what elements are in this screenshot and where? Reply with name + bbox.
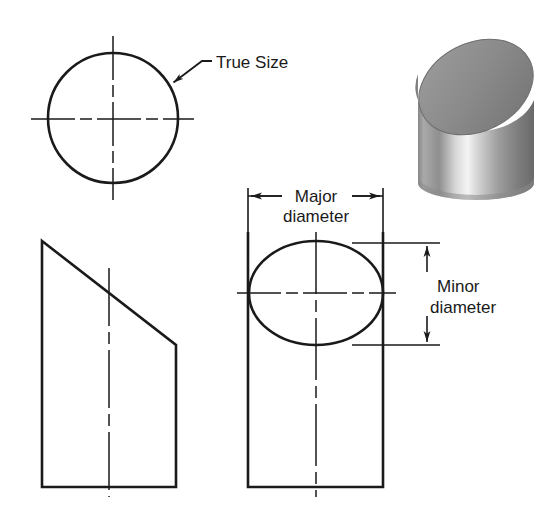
technical-drawing-figure: True Size bbox=[0, 0, 549, 528]
front-view-trapezoid bbox=[42, 241, 176, 497]
minor-diameter-dimension: Minor diameter bbox=[352, 243, 496, 345]
side-view-rectangle-with-ellipse bbox=[237, 232, 396, 497]
true-size-callout: True Size bbox=[174, 53, 289, 83]
true-size-label: True Size bbox=[216, 53, 288, 72]
minor-diameter-label-line2: diameter bbox=[430, 298, 496, 317]
true-size-leader-line bbox=[174, 61, 213, 83]
major-diameter-label-line1: Major bbox=[295, 187, 338, 206]
shaded-cylinder-pictorial bbox=[403, 21, 549, 200]
drawing-canvas: True Size bbox=[0, 0, 549, 528]
minor-diameter-label-line1: Minor bbox=[437, 277, 480, 296]
major-diameter-label-line2: diameter bbox=[283, 207, 349, 226]
true-size-circle-view bbox=[31, 36, 194, 200]
